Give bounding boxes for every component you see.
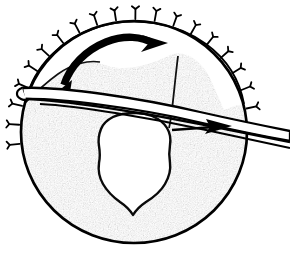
- rim-tick-stem: [9, 124, 19, 125]
- rim-tick-stem: [10, 144, 20, 145]
- figure-container: Line drawing of a circular cross-section…: [0, 0, 290, 257]
- surgical-illustration: [0, 0, 290, 257]
